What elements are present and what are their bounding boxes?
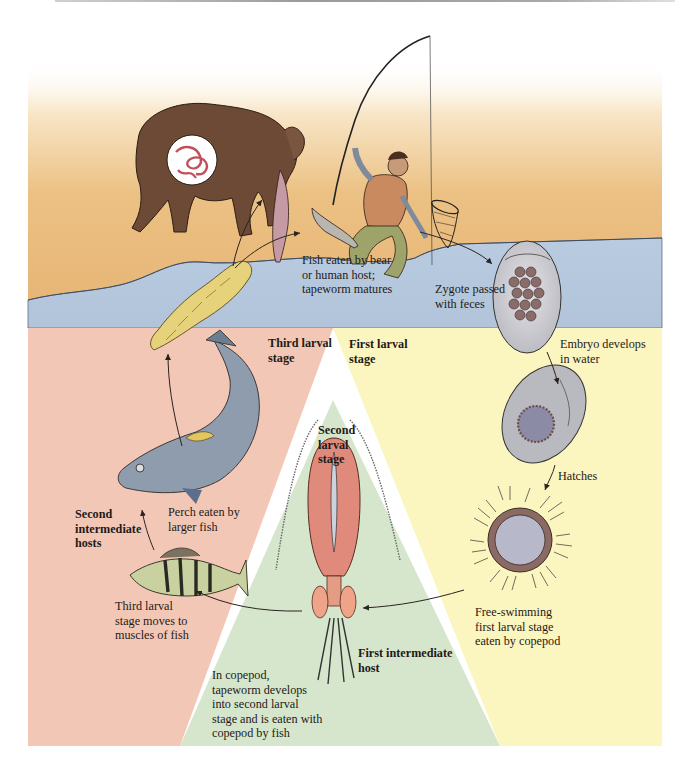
caption-embryo: Embryo develops in water [560,337,646,366]
caption-perch-eaten: Perch eaten by larger fish [168,505,240,534]
caption-muscles: Third larval stage moves to muscles of f… [115,599,189,643]
caption-free-swimming: Free-swimming first larval stage eaten b… [475,605,560,649]
label-second-larval-stage: Second larval stage [318,423,355,467]
caption-fish-eaten: Fish eaten by bear or human host; tapewo… [302,253,392,297]
caption-hatches: Hatches [558,469,597,484]
caption-in-copepod: In copepod, tapeworm develops into secon… [212,668,322,741]
label-second-intermediate-hosts: Second intermediate hosts [75,507,141,551]
life-cycle-diagram [0,0,687,772]
label-third-larval-stage: Third larval stage [268,336,332,365]
label-first-larval-stage: First larval stage [349,337,408,366]
label-first-intermediate-host: First intermediate host [358,646,452,675]
caption-zygote: Zygote passed with feces [435,282,505,311]
